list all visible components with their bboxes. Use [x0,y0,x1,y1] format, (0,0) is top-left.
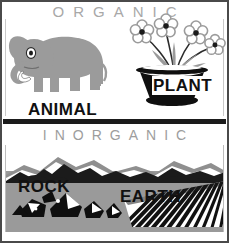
elephant-illustration [6,28,114,100]
inorganic-heading: INORGANIC [0,128,229,142]
label-animal: ANIMAL [28,101,97,118]
concept-poster: ORGANIC [0,0,229,243]
label-plant: PLANT [152,76,213,95]
label-rock: ROCK [18,178,70,195]
bottom-white-band [3,232,226,241]
potted-flowers-illustration [122,14,226,118]
organic-panel: ORGANIC [0,0,229,120]
section-divider [3,119,226,124]
label-earth: EARTH [120,188,181,205]
